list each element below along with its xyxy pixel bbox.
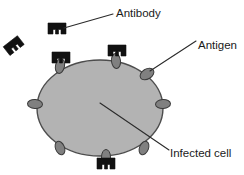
- diagram-svg: Antibody Antigen Infected cell: [0, 0, 244, 175]
- label-infected-cell: Infected cell: [170, 147, 231, 159]
- antibody-bound-top-left: [52, 52, 70, 63]
- antibody-free-left: [3, 36, 24, 56]
- antibody-bound-top-center: [108, 45, 126, 56]
- label-antigen: Antigen: [198, 39, 237, 51]
- antibody-free-labeled: [48, 23, 66, 34]
- leader-antibody: [64, 14, 113, 28]
- antibody-bound-bottom: [97, 158, 115, 169]
- label-antibody: Antibody: [116, 7, 161, 19]
- diagram-canvas: Antibody Antigen Infected cell: [0, 0, 244, 175]
- leader-antigen: [150, 41, 196, 71]
